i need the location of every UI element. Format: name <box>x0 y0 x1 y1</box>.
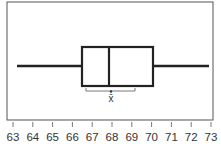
tick-label: 65 <box>46 131 59 143</box>
tick-label: 73 <box>205 131 218 143</box>
tick-label: 72 <box>185 131 198 143</box>
tick-label: 71 <box>165 131 178 143</box>
tick-label: 69 <box>125 131 138 143</box>
tick-label: 67 <box>86 131 99 143</box>
tick-label: 68 <box>106 131 119 143</box>
mean-label: x̄ <box>109 93 114 104</box>
interquartile-box <box>82 47 153 86</box>
tick-label: 63 <box>7 131 20 143</box>
tick-label: 70 <box>145 131 158 143</box>
tick-label: 66 <box>66 131 79 143</box>
x-axis: 63 64 65 66 67 68 69 70 71 72 73 <box>7 122 218 143</box>
tick-label: 64 <box>26 131 39 143</box>
box-plot-chart: x̄ 63 64 65 66 67 68 69 70 71 72 73 <box>0 0 221 147</box>
